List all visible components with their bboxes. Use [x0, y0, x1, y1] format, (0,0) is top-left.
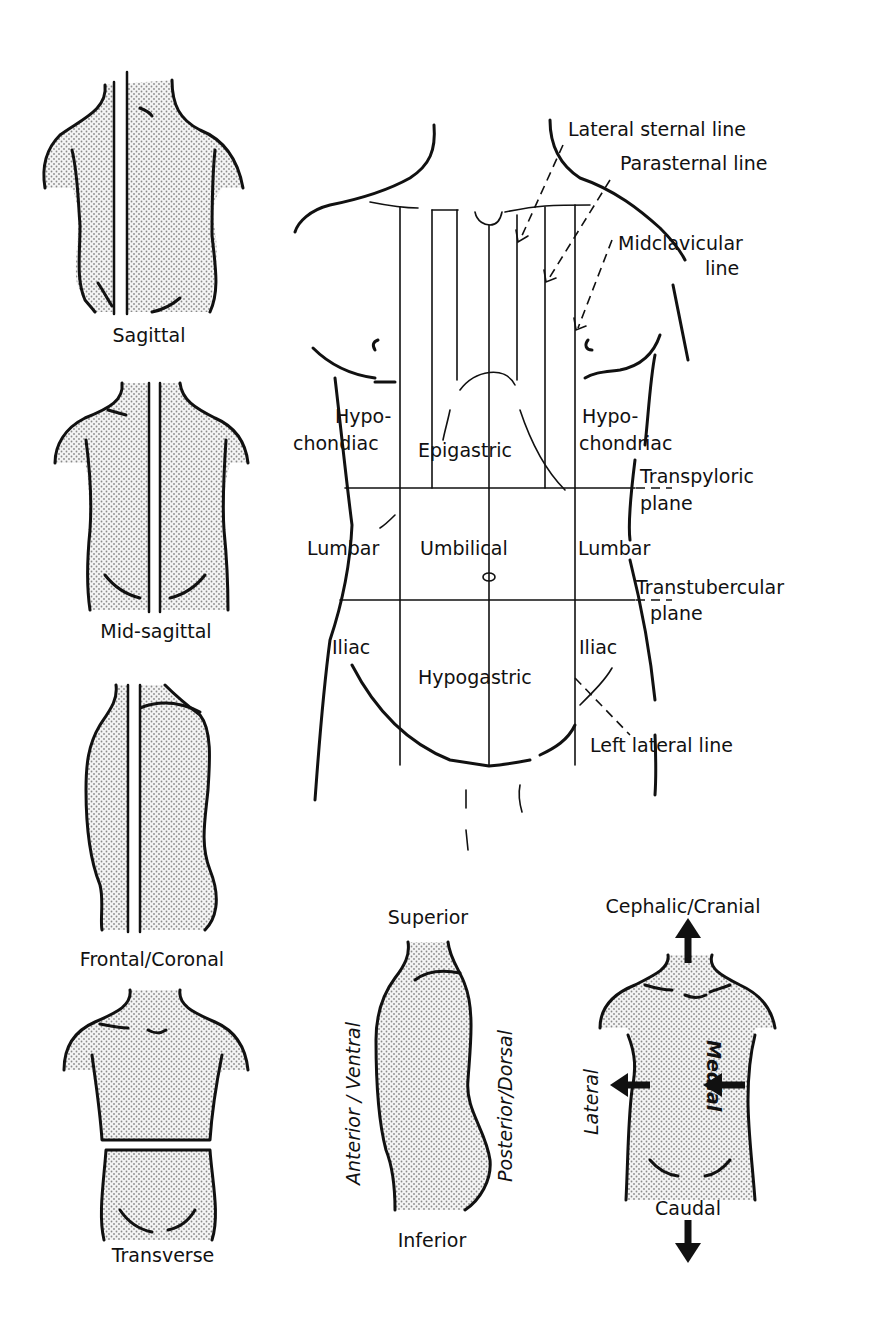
label-lateral: Lateral — [580, 1068, 602, 1135]
sagittal-figure — [44, 72, 243, 315]
label-hypochondriac-left-2: chondiac — [293, 432, 379, 454]
label-inferior: Inferior — [398, 1229, 467, 1251]
label-hypochondriac-right-2: chondriac — [579, 432, 672, 454]
label-parasternal-line: Parasternal line — [620, 152, 768, 174]
label-epigastric: Epigastric — [418, 439, 512, 461]
label-cephalic-cranial: Cephalic/Cranial — [605, 895, 760, 917]
label-hypochondriac-right-1: Hypo- — [582, 405, 638, 427]
label-caudal: Caudal — [655, 1197, 721, 1219]
label-medial: Medial — [703, 1040, 725, 1112]
label-transtubercular-plane-2: plane — [650, 602, 703, 624]
label-sagittal: Sagittal — [113, 324, 186, 346]
label-lumbar-right: Lumbar — [578, 537, 651, 559]
label-left-lateral-line: Left lateral line — [590, 734, 733, 756]
mid-sagittal-figure — [55, 383, 248, 613]
label-transpyloric-plane-1: Transpyloric — [639, 465, 754, 487]
label-midclavicular-line-1: Midclavicular — [618, 232, 743, 254]
label-superior: Superior — [388, 906, 469, 928]
frontal-coronal-figure — [86, 685, 216, 933]
label-transverse: Transverse — [111, 1244, 215, 1266]
label-lateral-sternal-line: Lateral sternal line — [568, 118, 746, 140]
label-midclavicular-line-2: line — [705, 257, 739, 279]
label-lumbar-left: Lumbar — [307, 537, 380, 559]
label-iliac-right: Iliac — [579, 636, 617, 658]
label-mid-sagittal: Mid-sagittal — [100, 620, 211, 642]
label-transpyloric-plane-2: plane — [640, 492, 693, 514]
label-hypogastric: Hypogastric — [418, 666, 532, 688]
transverse-figure — [64, 990, 248, 1240]
label-transtubercular-plane-1: Transtubercular — [635, 576, 784, 598]
label-hypochondriac-left-1: Hypo- — [335, 405, 391, 427]
label-frontal-coronal: Frontal/Coronal — [80, 948, 224, 970]
label-anterior-ventral: Anterior / Ventral — [342, 1021, 364, 1187]
side-profile-figure — [376, 942, 490, 1210]
label-umbilical: Umbilical — [420, 537, 508, 559]
label-posterior-dorsal: Posterior/Dorsal — [494, 1029, 516, 1182]
anatomical-planes-diagram: Sagittal Mid-sagittal Frontal/Coronal — [0, 0, 870, 1325]
label-iliac-left: Iliac — [332, 636, 370, 658]
